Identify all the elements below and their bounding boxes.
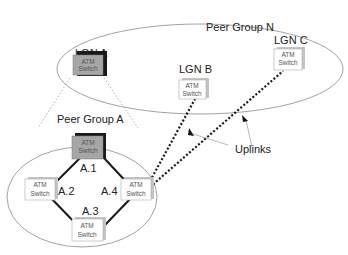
svg-text:Switch: Switch bbox=[126, 190, 146, 197]
a4-label: A.4 bbox=[101, 185, 118, 197]
a3-label: A.3 bbox=[82, 205, 99, 217]
lgn-c-node[interactable]: LGN C ATM Switch bbox=[274, 34, 308, 70]
svg-text:ATM: ATM bbox=[81, 139, 94, 146]
svg-text:ATM: ATM bbox=[129, 181, 142, 188]
svg-text:ATM: ATM bbox=[33, 181, 46, 188]
a1-label: A.1 bbox=[80, 162, 97, 174]
node-a3[interactable]: A.3 ATM Switch bbox=[72, 205, 106, 241]
svg-text:Switch: Switch bbox=[30, 190, 50, 197]
svg-text:Switch: Switch bbox=[278, 59, 298, 66]
lgn-b-label: LGN B bbox=[179, 63, 212, 75]
node-a2[interactable]: ATM Switch A.2 bbox=[25, 177, 75, 200]
link-a4-a3 bbox=[104, 197, 132, 226]
svg-text:Switch: Switch bbox=[78, 147, 98, 154]
lgn-a-node[interactable]: LGN A ATM Switch bbox=[73, 47, 108, 76]
svg-text:ATM: ATM bbox=[281, 51, 294, 58]
svg-text:ATM: ATM bbox=[81, 58, 94, 65]
uplinks-label: Uplinks bbox=[235, 143, 272, 155]
svg-text:ATM: ATM bbox=[80, 222, 93, 229]
peer-group-a-label: Peer Group A bbox=[57, 113, 124, 125]
svg-text:ATM: ATM bbox=[185, 82, 198, 89]
uplinks-callout: Uplinks bbox=[188, 115, 272, 155]
lgn-b-node[interactable]: LGN B ATM Switch bbox=[179, 63, 212, 99]
svg-text:Switch: Switch bbox=[78, 65, 98, 72]
svg-text:Switch: Switch bbox=[182, 90, 202, 97]
pnni-hierarchy-diagram: Peer Group N Peer Group A Uplinks LGN A … bbox=[0, 0, 348, 255]
uplink-a4-lgnc bbox=[150, 71, 283, 187]
svg-text:Switch: Switch bbox=[77, 231, 97, 238]
peer-group-n-label: Peer Group N bbox=[206, 21, 274, 33]
a2-label: A.2 bbox=[58, 185, 75, 197]
lgn-c-label: LGN C bbox=[274, 34, 308, 46]
node-a4[interactable]: A.4 ATM Switch bbox=[101, 177, 154, 200]
node-a1[interactable]: ATM Switch A.1 bbox=[72, 133, 106, 174]
uplinks bbox=[150, 71, 283, 187]
